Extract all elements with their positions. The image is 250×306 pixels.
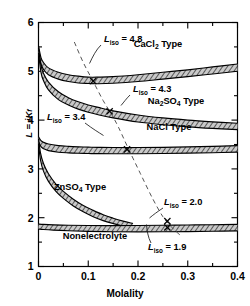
band-label-na2so4: Na2SO4 Type	[148, 96, 204, 107]
y-axis-label: L = iKf	[23, 94, 34, 154]
y-tick-label: 1	[28, 260, 34, 272]
x-tick-label: 0.1	[81, 270, 96, 282]
x-axis-label: Molality	[0, 288, 250, 299]
y-tick-label: 6	[28, 16, 34, 28]
y-tick-label: 3	[28, 163, 34, 175]
chart-figure: 00.10.20.30.4 123456 CaCl2 Type Na2SO4 T…	[0, 0, 250, 306]
x-tick-label: 0	[36, 270, 42, 282]
y-tick-label: 5	[28, 65, 34, 77]
x-tick-label: 0.4	[230, 270, 245, 282]
chart-svg: 00.10.20.30.4 123456 CaCl2 Type Na2SO4 T…	[0, 0, 250, 306]
band-label-nonelectrolyte: Nonelectrolyte	[63, 231, 128, 241]
x-tick-label: 0.3	[180, 270, 195, 282]
x-tick-label: 0.2	[131, 270, 146, 282]
x-tick-labels: 00.10.20.30.4	[36, 270, 245, 282]
y-tick-label: 2	[28, 212, 34, 224]
band-label-nacl: NaCl Type	[147, 122, 192, 132]
